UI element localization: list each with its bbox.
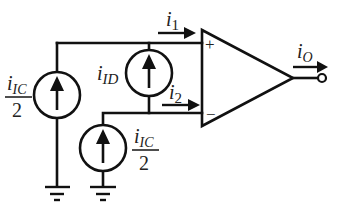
ground-bottom-icon (90, 187, 116, 200)
label-io: iO (297, 40, 313, 65)
opamp-triangle (202, 30, 293, 126)
svg-text:iIC: iIC (134, 125, 154, 150)
label-iic-bottom: iIC 2 (132, 125, 159, 174)
current-source-left (34, 72, 80, 118)
plus-sign: + (205, 35, 215, 54)
output-terminal (318, 74, 326, 82)
ground-left-icon (45, 187, 70, 200)
minus-sign: − (206, 105, 216, 124)
current-source-bottom (80, 125, 126, 171)
svg-text:2: 2 (139, 152, 149, 174)
label-i1: i1 (166, 8, 179, 33)
current-source-id (126, 50, 172, 96)
label-iic-left: iIC 2 (5, 72, 32, 121)
svg-text:2: 2 (12, 99, 22, 121)
circuit-diagram: + − i1 i2 iO iID iIC 2 iIC 2 (0, 0, 338, 209)
label-iid: iID (97, 62, 119, 87)
label-i2: i2 (169, 81, 182, 106)
svg-text:iIC: iIC (7, 72, 27, 97)
